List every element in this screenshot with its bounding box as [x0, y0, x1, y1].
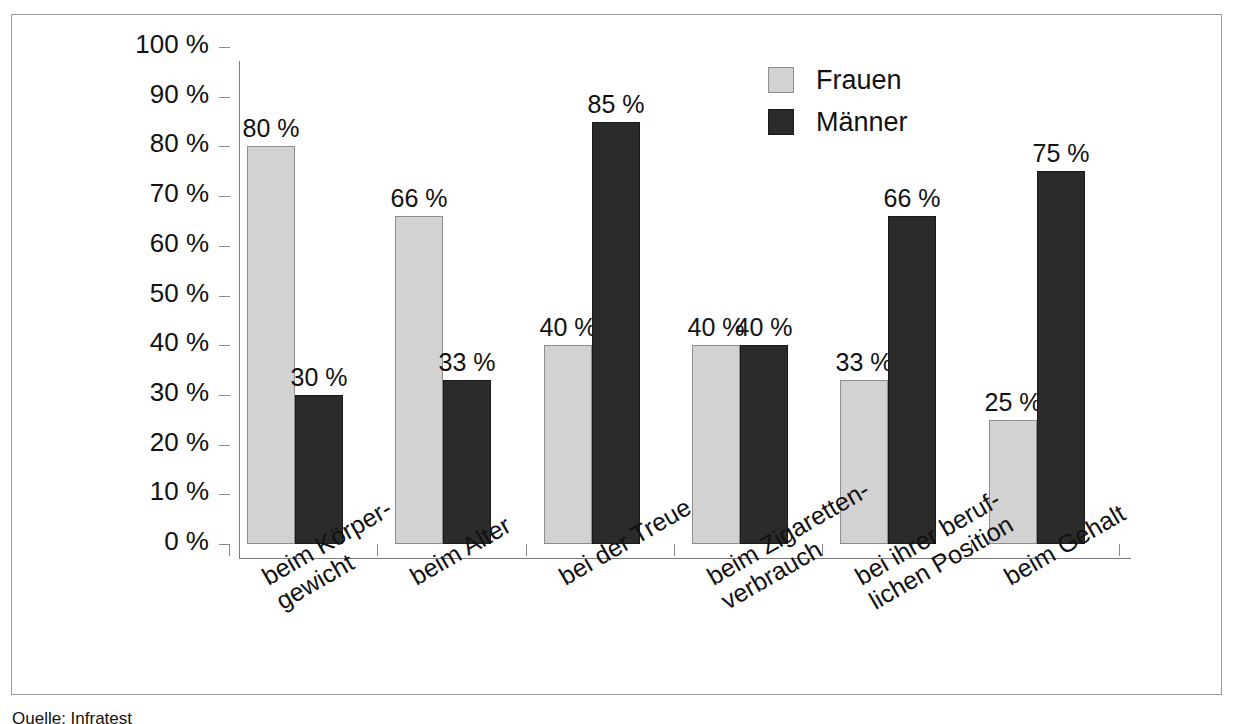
y-axis-tick-label: 100 % [29, 29, 209, 60]
y-axis-tick-label: 30 % [29, 377, 209, 408]
bar-value-label: 40 % [719, 313, 809, 342]
y-axis-tick-label: 0 % [29, 526, 209, 557]
y-axis-tick-label: 80 % [29, 128, 209, 159]
legend-swatch-frauen [768, 67, 794, 93]
bar-frauen [544, 345, 592, 544]
bar-frauen [395, 216, 443, 544]
legend-item-maenner: Männer [768, 101, 908, 143]
y-axis-tick [219, 296, 230, 297]
x-axis-tick [229, 544, 230, 556]
chart-frame: 0 %10 %20 %30 %40 %50 %60 %70 %80 %90 %1… [11, 14, 1222, 695]
bar-value-label: 85 % [571, 90, 661, 119]
y-axis-tick [219, 494, 230, 495]
bar-value-label: 75 % [1016, 139, 1106, 168]
y-axis-tick-label: 20 % [29, 427, 209, 458]
chart-legend: Frauen Männer [768, 59, 908, 143]
y-axis-tick-label: 10 % [29, 476, 209, 507]
y-axis-tick [219, 345, 230, 346]
bar-frauen [247, 146, 295, 544]
y-axis-tick-label: 70 % [29, 178, 209, 209]
bar-value-label: 33 % [422, 348, 512, 377]
bar-maenner [740, 345, 788, 544]
legend-item-frauen: Frauen [768, 59, 908, 101]
x-axis-tick [674, 544, 675, 556]
bar-maenner [1037, 171, 1085, 544]
bar-frauen [692, 345, 740, 544]
legend-swatch-maenner [768, 109, 794, 135]
source-caption: Quelle: Infratest [12, 709, 712, 724]
legend-label-frauen: Frauen [816, 65, 902, 96]
bar-value-label: 30 % [274, 363, 364, 392]
y-axis-tick [219, 47, 230, 48]
y-axis-tick [219, 395, 230, 396]
bar-value-label: 66 % [867, 184, 957, 213]
y-axis-tick-label: 50 % [29, 278, 209, 309]
y-axis-tick-label: 90 % [29, 79, 209, 110]
y-axis-tick-label: 60 % [29, 228, 209, 259]
x-axis-tick [526, 544, 527, 556]
bar-value-label: 66 % [374, 184, 464, 213]
y-axis-tick-label: 40 % [29, 327, 209, 358]
y-axis-tick [219, 196, 230, 197]
y-axis-tick [219, 97, 230, 98]
bar-maenner [888, 216, 936, 544]
legend-label-maenner: Männer [816, 107, 908, 138]
y-axis-tick [219, 246, 230, 247]
x-axis-tick [1119, 544, 1120, 556]
bar-maenner [592, 122, 640, 544]
y-axis-tick [219, 146, 230, 147]
y-axis-tick [219, 445, 230, 446]
bar-value-label: 80 % [226, 114, 316, 143]
